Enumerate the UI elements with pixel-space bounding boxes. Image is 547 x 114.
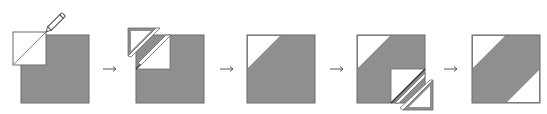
quilt-block-diagram [0, 0, 547, 114]
step-3 [247, 35, 315, 103]
arrow-icon [103, 67, 116, 72]
arrow-icon [444, 67, 457, 72]
step-2 [128, 28, 204, 103]
pencil-icon [44, 13, 65, 34]
step-1 [13, 13, 89, 103]
step-5 [472, 35, 540, 103]
arrow-icon [220, 67, 233, 72]
step-4 [357, 35, 433, 110]
arrow-icon [330, 67, 343, 72]
